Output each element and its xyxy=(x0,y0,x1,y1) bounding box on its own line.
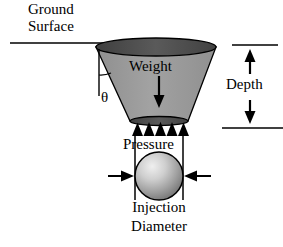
injection-sphere xyxy=(135,152,183,200)
injection-cone-diagram: Ground Surface Weight θ Pressure Depth I… xyxy=(0,0,283,247)
injection-diameter-label: Injection Diameter xyxy=(106,200,212,235)
cone-group xyxy=(96,38,216,126)
injection-diameter-label-line2: Diameter xyxy=(106,219,212,235)
depth-label: Depth xyxy=(226,77,263,93)
ground-surface-label: Ground Surface xyxy=(28,2,74,35)
weight-label: Weight xyxy=(129,59,172,75)
cone-bottom-rim xyxy=(130,117,188,126)
injection-diameter-label-line1: Injection xyxy=(132,199,185,215)
depth-up-arrow xyxy=(245,49,256,74)
pressure-label: Pressure xyxy=(123,137,174,153)
cone-top-rim xyxy=(96,38,216,56)
ground-surface-label-line1: Ground xyxy=(28,1,74,17)
depth-down-arrow xyxy=(245,100,256,124)
ground-surface-label-line2: Surface xyxy=(28,19,74,35)
theta-label: θ xyxy=(101,90,108,106)
